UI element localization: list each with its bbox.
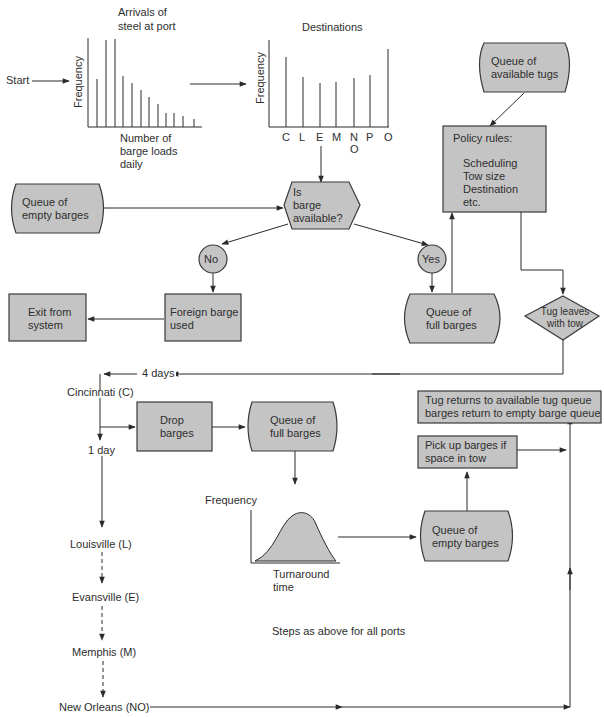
queue-full-barges-top-label: Queue of full barges <box>426 306 477 332</box>
turnaround-chart-ylabel: Frequency <box>205 494 257 507</box>
queue-full-top-line2: full barges <box>426 319 477 332</box>
arrivals-chart-xlabel-1: Number of <box>120 132 171 145</box>
exit-system-label: Exit from system <box>28 306 71 332</box>
queue-empty-top-line1: Queue of <box>22 196 89 209</box>
destinations-chart-ylabel: Frequency <box>254 52 267 104</box>
decision-to-yes-arrow <box>354 224 428 245</box>
exit-line2: system <box>28 319 71 332</box>
pick-up-barges-label: Pick up barges if space in tow <box>425 439 506 465</box>
arrivals-chart-title-2: steel at port <box>118 20 175 33</box>
steps-note: Steps as above for all ports <box>272 625 405 638</box>
drop-barges-label: Drop barges <box>160 414 194 440</box>
drop-line1: Drop <box>160 414 194 427</box>
queue-empty-barges-port-label: Queue of empty barges <box>432 524 499 550</box>
foreign-barge-label: Foreign barge used <box>170 306 239 332</box>
queue-full-top-line1: Queue of <box>426 306 477 319</box>
dest-tick-p: P <box>366 131 373 144</box>
destinations-chart-title: Destinations <box>302 21 363 34</box>
port-cincinnati: Cincinnati (C) <box>67 386 134 399</box>
policy-item-tow-size: Tow size <box>463 170 518 183</box>
tug-returns-line1: Tug returns to available tug queue <box>425 394 601 407</box>
policy-rules-label: Policy rules: Scheduling Tow size Destin… <box>453 132 518 209</box>
tug-leaves-line2: with tow <box>533 318 597 330</box>
pick-up-line2: space in tow <box>425 452 506 465</box>
destinations-chart-bars <box>286 49 388 127</box>
policy-rules-title: Policy rules: <box>453 132 518 145</box>
queue-empty-barges-top-label: Queue of empty barges <box>22 196 89 222</box>
queue-available-tugs-line2: available tugs <box>491 68 558 81</box>
one-day-label: 1 day <box>88 444 115 457</box>
tug-returns-label: Tug returns to available tug queue barge… <box>425 394 601 420</box>
queue-empty-port-line2: empty barges <box>432 537 499 550</box>
port-new-orleans: New Orleans (NO) <box>59 701 149 714</box>
start-label: Start <box>6 74 29 87</box>
port-louisville: Louisville (L) <box>70 538 132 551</box>
dest-tick-l: L <box>299 131 305 144</box>
decision-to-no-arrow <box>222 224 288 244</box>
queue-full-port-line1: Queue of <box>270 414 321 427</box>
queue-full-port-line2: full barges <box>270 427 321 440</box>
flow-diagram-canvas <box>0 0 604 717</box>
tug-leaves-label: Tug leaves with tow <box>533 306 597 330</box>
tugs-to-policy-arrow <box>490 93 524 126</box>
turnaround-chart-xlabel-2: time <box>273 581 294 594</box>
destinations-chart-axes <box>269 40 389 127</box>
drop-line2: barges <box>160 427 194 440</box>
dest-tick-e: E <box>316 131 323 144</box>
arrivals-chart-xlabel-3: daily <box>120 158 143 171</box>
queue-available-tugs-label: Queue of available tugs <box>491 55 558 81</box>
arrivals-chart-bars <box>97 39 194 127</box>
policy-to-tug-leaves-arrow <box>521 212 563 294</box>
port-memphis: Memphis (M) <box>72 646 136 659</box>
queue-empty-top-line2: empty barges <box>22 209 89 222</box>
dest-tick-c: C <box>282 131 290 144</box>
no-label: No <box>204 253 218 266</box>
queue-empty-port-line1: Queue of <box>432 524 499 537</box>
tug-returns-line2: barges return to empty barge queue <box>425 407 601 420</box>
turnaround-chart-xlabel-1: Turnaround <box>273 568 329 581</box>
yes-label: Yes <box>422 253 440 266</box>
foreign-line1: Foreign barge <box>170 306 239 319</box>
pick-up-line1: Pick up barges if <box>425 439 506 452</box>
dest-tick-o: O <box>384 131 393 144</box>
four-days-label: 4 days <box>140 367 176 380</box>
policy-item-scheduling: Scheduling <box>463 157 518 170</box>
is-barge-available-label: Is barge available? <box>293 186 343 225</box>
decision-line1: Is <box>293 186 343 199</box>
foreign-line2: used <box>170 319 239 332</box>
arrivals-chart-xlabel-2: barge loads <box>120 145 178 158</box>
decision-line2: barge <box>293 199 343 212</box>
policy-item-etc: etc. <box>463 196 518 209</box>
decision-line3: available? <box>293 212 343 225</box>
exit-line1: Exit from <box>28 306 71 319</box>
tug-leaves-line1: Tug leaves <box>533 306 597 318</box>
dest-tick-n-o: O <box>350 143 359 156</box>
queue-full-barges-port-label: Queue of full barges <box>270 414 321 440</box>
arrivals-chart-axes <box>88 38 202 127</box>
policy-item-destination: Destination <box>463 183 518 196</box>
turnaround-bell-curve <box>255 513 336 561</box>
port-evansville: Evansville (E) <box>72 591 139 604</box>
queue-available-tugs-line1: Queue of <box>491 55 558 68</box>
arrivals-chart-ylabel: Frequency <box>72 56 85 108</box>
dest-tick-m: M <box>332 131 341 144</box>
arrivals-chart-title-1: Arrivals of <box>118 6 167 19</box>
